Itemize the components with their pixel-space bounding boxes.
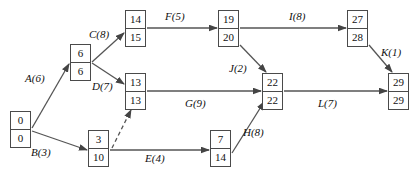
edge-label-j: J(2) [229, 62, 247, 74]
node-19[interactable]: 19 20 [218, 10, 239, 47]
node-14[interactable]: 14 15 [125, 10, 146, 47]
node-29[interactable]: 29 29 [388, 73, 409, 110]
node-6-early: 6 [71, 45, 90, 63]
node-6[interactable]: 6 6 [70, 44, 91, 81]
edge-label-i: I(8) [289, 10, 306, 22]
node-13-early: 13 [126, 74, 145, 92]
edge-label-g: G(9) [185, 97, 206, 109]
edge-label-e: E(4) [145, 152, 165, 164]
node-13-late: 13 [126, 92, 145, 109]
edge-label-d: D(7) [92, 80, 113, 92]
edge-line-dummy [112, 110, 131, 148]
node-19-late: 20 [219, 29, 238, 46]
node-start[interactable]: 0 0 [10, 111, 31, 148]
edge-label-f: F(5) [165, 10, 185, 22]
node-29-early: 29 [389, 74, 408, 92]
node-22-early: 22 [263, 74, 282, 92]
node-3-late: 10 [89, 149, 108, 166]
edge-label-l: L(7) [318, 97, 337, 109]
node-start-early: 0 [11, 112, 30, 130]
node-3-early: 3 [89, 131, 108, 149]
edge-label-k: K(1) [381, 46, 401, 58]
node-13[interactable]: 13 13 [125, 73, 146, 110]
node-14-early: 14 [126, 11, 145, 29]
network-diagram: 0 0 6 6 14 15 13 13 3 10 19 20 22 22 7 1… [0, 0, 416, 174]
node-14-late: 15 [126, 29, 145, 46]
node-7-early: 7 [211, 131, 230, 149]
node-3[interactable]: 3 10 [88, 130, 109, 167]
edge-label-b: B(3) [31, 146, 51, 158]
node-7[interactable]: 7 14 [210, 130, 231, 167]
node-19-early: 19 [219, 11, 238, 29]
node-29-late: 29 [389, 92, 408, 109]
node-start-late: 0 [11, 130, 30, 147]
node-7-late: 14 [211, 149, 230, 166]
node-27-early: 27 [348, 11, 367, 29]
edge-label-h: H(8) [243, 126, 264, 138]
node-22[interactable]: 22 22 [262, 73, 283, 110]
edge-label-a: A(6) [25, 72, 45, 84]
edge-label-c: C(8) [89, 28, 109, 40]
node-27-late: 28 [348, 29, 367, 46]
node-22-late: 22 [263, 92, 282, 109]
node-6-late: 6 [71, 63, 90, 80]
node-27[interactable]: 27 28 [347, 10, 368, 47]
